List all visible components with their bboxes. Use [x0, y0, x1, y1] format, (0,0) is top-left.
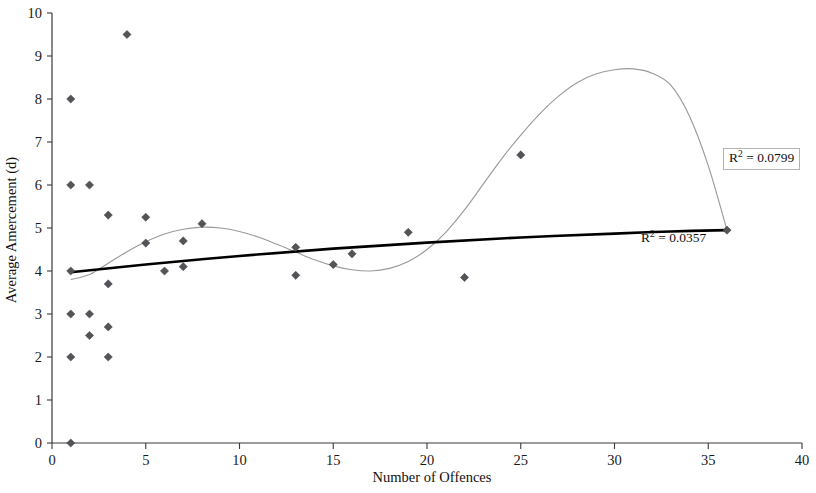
scatter-chart: 012345678910 0510152025303540 Number of …	[0, 0, 816, 493]
x-tick-label: 15	[326, 452, 341, 468]
x-tick-label: 0	[48, 452, 55, 468]
data-point	[67, 95, 75, 103]
x-tick-label: 35	[701, 452, 716, 468]
x-tick-label: 5	[142, 452, 149, 468]
r-squared-polynomial-label: R2 = 0.0799	[723, 148, 800, 170]
y-tick-label: 9	[35, 48, 42, 64]
data-point	[404, 228, 412, 236]
data-point	[104, 211, 112, 219]
y-tick-label: 0	[35, 435, 42, 451]
y-tick-label: 3	[35, 306, 42, 322]
data-point	[67, 353, 75, 361]
data-point	[67, 181, 75, 189]
r-squared-linear-label: R2 = 0.0357	[641, 231, 706, 246]
y-tick-label: 1	[35, 392, 42, 408]
x-tick-label: 40	[795, 452, 810, 468]
data-point	[329, 260, 337, 268]
data-point	[67, 267, 75, 275]
y-axis-title: Average Amercement (d)	[3, 157, 20, 303]
data-point	[104, 323, 112, 331]
data-point	[179, 263, 187, 271]
data-point	[517, 151, 525, 159]
data-point	[67, 310, 75, 318]
x-axis: 0510152025303540	[48, 443, 809, 468]
chart-canvas: 012345678910 0510152025303540 Number of …	[0, 0, 816, 493]
x-tick-label: 10	[232, 452, 247, 468]
y-tick-label: 2	[35, 349, 42, 365]
y-tick-label: 4	[35, 263, 43, 279]
data-point	[142, 213, 150, 221]
data-point	[85, 331, 93, 339]
data-point	[179, 237, 187, 245]
data-point	[348, 250, 356, 258]
data-point	[67, 439, 75, 447]
data-point	[460, 273, 468, 281]
data-point	[85, 310, 93, 318]
data-point	[292, 271, 300, 279]
trend-polynomial-path	[71, 69, 727, 280]
data-point	[160, 267, 168, 275]
x-tick-label: 25	[514, 452, 529, 468]
data-point	[123, 30, 131, 38]
x-tick-label: 30	[607, 452, 622, 468]
y-tick-label: 6	[35, 177, 42, 193]
y-tick-label: 5	[35, 220, 42, 236]
y-tick-label: 10	[28, 5, 43, 21]
x-axis-title: Number of Offences	[373, 469, 492, 485]
data-point	[85, 181, 93, 189]
y-tick-label: 8	[35, 91, 42, 107]
data-point	[723, 226, 731, 234]
x-tick-label: 20	[420, 452, 435, 468]
data-point	[104, 353, 112, 361]
y-tick-label: 7	[35, 134, 42, 150]
y-axis: 012345678910	[28, 5, 53, 451]
data-point	[104, 280, 112, 288]
data-points	[67, 30, 731, 447]
polynomial-trendline	[71, 69, 727, 280]
